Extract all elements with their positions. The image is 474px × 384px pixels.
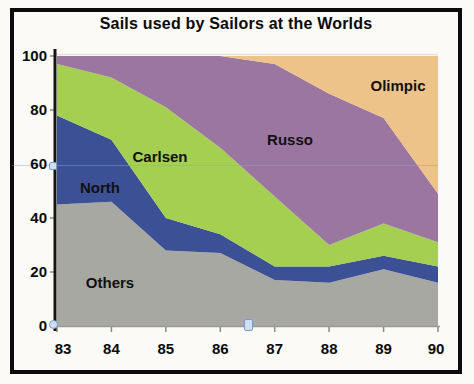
x-tick-label-85: 85 [149, 340, 183, 357]
area-label-russo: Russo [245, 131, 335, 148]
y-tick-label-100: 100 [11, 47, 47, 64]
x-tick-label-89: 89 [367, 340, 401, 357]
y-tick-label-60: 60 [11, 155, 47, 172]
area-label-north: North [55, 179, 145, 196]
x-tick-label-84: 84 [94, 340, 128, 357]
y-tick-label-80: 80 [11, 101, 47, 118]
area-label-olimpic: Olimpic [353, 77, 443, 94]
x-tick-label-87: 87 [258, 340, 292, 357]
y-tick-label-40: 40 [11, 209, 47, 226]
selection-guide-line [12, 165, 438, 166]
x-tick-label-90: 90 [419, 340, 453, 357]
y-axis-selection-handle[interactable] [49, 162, 57, 170]
x-tick-label-83: 83 [46, 340, 80, 357]
x-tick-label-86: 86 [203, 340, 237, 357]
y-tick-label-0: 0 [11, 317, 47, 334]
origin-selection-handle[interactable] [49, 320, 58, 329]
x-tick-label-88: 88 [312, 340, 346, 357]
area-label-others: Others [65, 274, 155, 291]
x-axis-selection-handle[interactable] [244, 319, 253, 331]
area-label-carlsen: Carlsen [115, 148, 205, 165]
y-tick-label-20: 20 [11, 263, 47, 280]
